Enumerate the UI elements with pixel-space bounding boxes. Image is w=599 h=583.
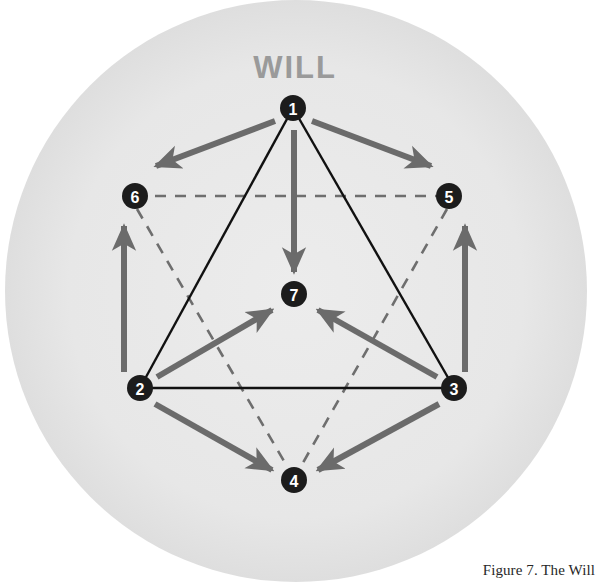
- node-2[interactable]: 2: [127, 375, 153, 401]
- node-7-label: 7: [290, 287, 299, 304]
- node-6-label: 6: [131, 189, 140, 206]
- node-4[interactable]: 4: [281, 467, 307, 493]
- node-2-label: 2: [136, 381, 145, 398]
- will-diagram: WILL 1: [0, 0, 599, 583]
- diagram-title: WILL: [253, 50, 337, 85]
- figure-caption: Figure 7. The Will: [483, 562, 595, 579]
- node-3-label: 3: [450, 381, 459, 398]
- node-4-label: 4: [290, 473, 299, 490]
- node-1[interactable]: 1: [280, 95, 306, 121]
- node-1-label: 1: [289, 101, 298, 118]
- figure-container: WILL 1: [0, 0, 599, 583]
- node-7[interactable]: 7: [281, 281, 307, 307]
- node-6[interactable]: 6: [122, 183, 148, 209]
- node-3[interactable]: 3: [441, 375, 467, 401]
- node-5[interactable]: 5: [436, 183, 462, 209]
- node-5-label: 5: [445, 189, 454, 206]
